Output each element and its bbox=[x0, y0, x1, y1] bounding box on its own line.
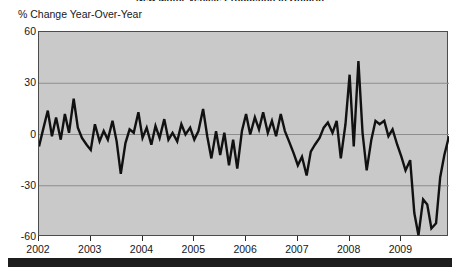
x-tick-mark bbox=[297, 236, 298, 241]
x-tick-mark bbox=[400, 236, 401, 241]
x-tick-label: 2003 bbox=[78, 243, 101, 255]
x-tick-label: 2007 bbox=[285, 243, 308, 255]
x-tick-mark bbox=[193, 236, 194, 241]
x-tick-label: 2002 bbox=[26, 243, 49, 255]
x-tick-label: 2009 bbox=[389, 243, 412, 255]
x-axis: 20022003200420052006200720082009 bbox=[0, 0, 460, 272]
x-tick-mark bbox=[245, 236, 246, 241]
x-tick-label: 2005 bbox=[182, 243, 205, 255]
x-tick-mark bbox=[90, 236, 91, 241]
x-tick-mark bbox=[38, 236, 39, 241]
bottom-decorative-bar bbox=[8, 258, 452, 267]
x-tick-label: 2004 bbox=[130, 243, 153, 255]
x-tick-mark bbox=[349, 236, 350, 241]
chart-figure: New Motor Vehicle Production in Ontario … bbox=[0, 0, 460, 272]
x-tick-label: 2006 bbox=[233, 243, 256, 255]
x-tick-mark bbox=[142, 236, 143, 241]
x-tick-label: 2008 bbox=[337, 243, 360, 255]
